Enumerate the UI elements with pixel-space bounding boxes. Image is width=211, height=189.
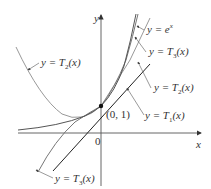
label-exp: y = ex [147,23,173,35]
leader-exp [137,26,144,30]
curve-t1 [53,64,150,171]
y-axis-label: y [94,13,99,24]
point-0-1 [99,104,103,108]
origin-label: 0 [95,136,101,147]
label-t2-left: y = T2(x) [41,57,81,71]
x-axis-label: x [196,139,201,150]
curve-t3 [38,14,138,172]
point-label: (0, 1) [106,109,130,120]
label-t3-bottom: y = T3(x) [55,173,95,187]
leader-t3-right [135,37,146,52]
leader-t3-bottom [36,170,53,178]
label-t1: y = T1(x) [145,110,185,124]
curve-t2 [16,18,150,118]
label-t2-right: y = T2(x) [154,82,194,96]
leader-t2-left [28,63,39,70]
label-t3-right: y = T3(x) [149,46,189,60]
